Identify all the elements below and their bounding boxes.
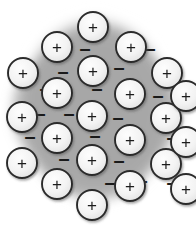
plus-sign-icon: + (126, 38, 136, 57)
plus-sign-icon: + (18, 64, 28, 83)
plus-sign-icon: + (52, 129, 62, 148)
plus-sign-icon: + (88, 18, 98, 37)
plus-sign-icon: + (87, 151, 97, 170)
plus-sign-icon: + (52, 38, 62, 57)
metal-cation: + (171, 127, 196, 157)
metal-cation: + (8, 58, 38, 88)
plus-sign-icon: + (161, 155, 171, 174)
plus-sign-icon: + (17, 154, 27, 173)
plus-sign-icon: + (52, 84, 62, 103)
metal-cation: + (115, 125, 145, 155)
metal-cation: + (78, 12, 108, 42)
plus-sign-icon: + (87, 107, 97, 126)
delocalized-electron: – (104, 171, 115, 193)
plus-sign-icon: + (88, 62, 98, 81)
metal-cation: + (78, 56, 108, 86)
plus-sign-icon: + (181, 133, 191, 152)
metal-cation: + (116, 32, 146, 62)
delocalized-electron: – (112, 106, 123, 128)
metal-cation: + (77, 190, 107, 220)
plus-sign-icon: + (181, 87, 191, 106)
metal-cation: + (7, 102, 37, 132)
metal-cation: + (77, 101, 107, 131)
metal-cation: + (7, 148, 37, 178)
metal-cation: + (42, 169, 72, 199)
metal-cation: + (115, 79, 145, 109)
plus-sign-icon: + (181, 180, 191, 199)
metal-cation: + (115, 171, 145, 201)
plus-sign-icon: + (161, 109, 171, 128)
metal-cation: + (42, 123, 72, 153)
metal-cation: + (171, 81, 196, 111)
metallic-bonding-figure: –––––––––––––––––––– +++++++++++++++++++… (0, 0, 196, 229)
plus-sign-icon: + (17, 108, 27, 127)
metal-cation: + (171, 174, 196, 204)
plus-sign-icon: + (52, 175, 62, 194)
plus-sign-icon: + (125, 85, 135, 104)
plus-sign-icon: + (125, 177, 135, 196)
plus-sign-icon: + (162, 64, 172, 83)
plus-sign-icon: + (87, 196, 97, 215)
plus-sign-icon: + (125, 131, 135, 150)
metal-cation: + (77, 145, 107, 175)
figure-canvas: –––––––––––––––––––– +++++++++++++++++++… (0, 0, 196, 229)
metal-cation: + (42, 32, 72, 62)
metal-cation: + (42, 78, 72, 108)
